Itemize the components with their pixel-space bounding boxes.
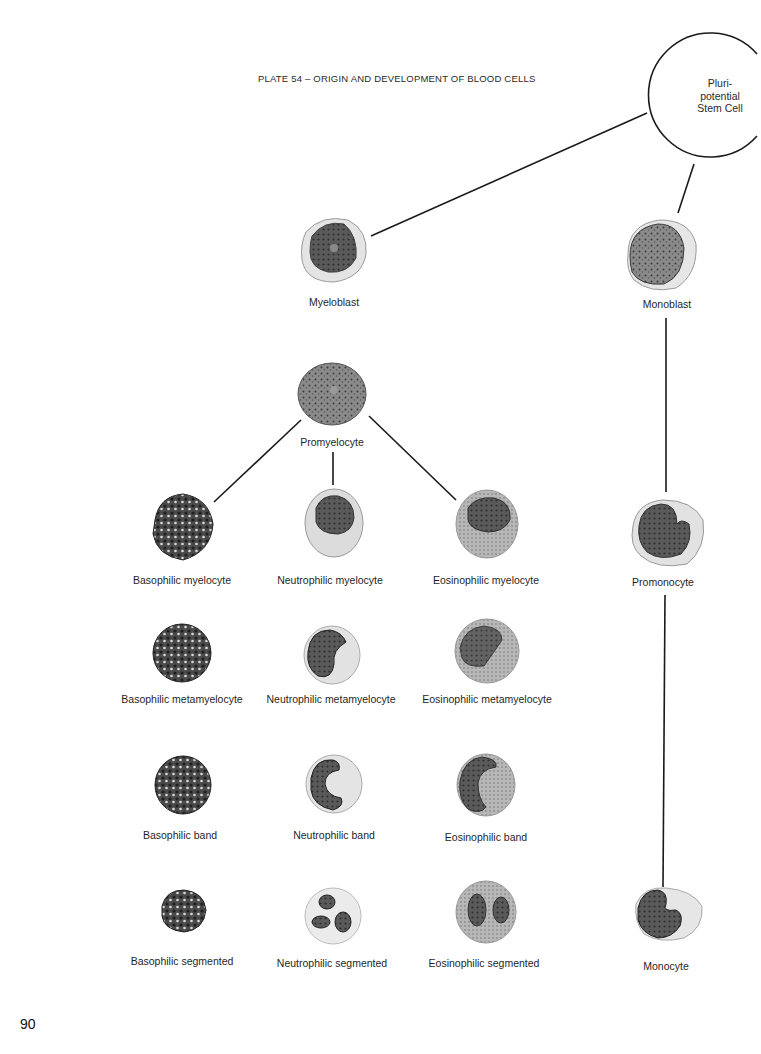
eosinophilic-metamyelocyte-cell-image — [454, 618, 520, 684]
label-promonocyte: Promonocyte — [632, 576, 694, 588]
label-promyelocyte: Promyelocyte — [300, 436, 364, 448]
myeloblast-cell-image — [296, 212, 372, 288]
monoblast-cell-image — [620, 214, 702, 296]
label-eosinophilic-metamyelocyte: Eosinophilic metamyelocyte — [422, 693, 552, 705]
eosinophilic-myelocyte-cell-image — [454, 488, 520, 560]
page-number: 90 — [20, 1016, 36, 1032]
neutrophilic-myelocyte-cell-image — [302, 486, 366, 560]
promonocyte-cell-image — [627, 496, 707, 570]
connector-promonocyte-monocyte — [663, 595, 665, 887]
label-neutrophilic-band: Neutrophilic band — [293, 829, 375, 841]
label-neutrophilic-myelocyte: Neutrophilic myelocyte — [277, 574, 383, 586]
connector-stem-monoblast — [678, 164, 694, 213]
label-monoblast: Monoblast — [643, 298, 691, 310]
basophilic-myelocyte-cell-image — [149, 490, 217, 562]
stem-cell-label: Pluri- potential Stem Cell — [680, 77, 760, 115]
label-myeloblast: Myeloblast — [309, 296, 359, 308]
label-monocyte: Monocyte — [643, 960, 689, 972]
connector-promyelocyte-eosinophilic — [369, 416, 456, 500]
connector-promyelocyte-basophilic — [214, 420, 301, 502]
eosinophilic-band-cell-image — [456, 753, 516, 817]
neutrophilic-band-cell-image — [305, 754, 363, 814]
label-basophilic-myelocyte: Basophilic myelocyte — [133, 574, 231, 586]
label-eosinophilic-myelocyte: Eosinophilic myelocyte — [433, 574, 539, 586]
neutrophilic-metamyelocyte-cell-image — [302, 624, 362, 686]
label-basophilic-band: Basophilic band — [143, 829, 217, 841]
label-neutrophilic-segmented: Neutrophilic segmented — [277, 957, 387, 969]
label-eosinophilic-band: Eosinophilic band — [445, 831, 527, 843]
label-basophilic-segmented: Basophilic segmented — [131, 955, 234, 967]
eosinophilic-segmented-cell-image — [455, 880, 517, 944]
basophilic-segmented-cell-image — [158, 888, 208, 934]
connector-stem-myeloblast — [371, 113, 647, 236]
monocyte-cell-image — [632, 884, 706, 946]
label-eosinophilic-segmented: Eosinophilic segmented — [429, 957, 540, 969]
promyelocyte-cell-image — [296, 360, 368, 428]
basophilic-band-cell-image — [154, 755, 212, 815]
label-basophilic-metamyelocyte: Basophilic metamyelocyte — [121, 693, 242, 705]
neutrophilic-segmented-cell-image — [303, 886, 363, 946]
basophilic-metamyelocyte-cell-image — [152, 622, 212, 684]
label-neutrophilic-metamyelocyte: Neutrophilic metamyelocyte — [267, 693, 396, 705]
